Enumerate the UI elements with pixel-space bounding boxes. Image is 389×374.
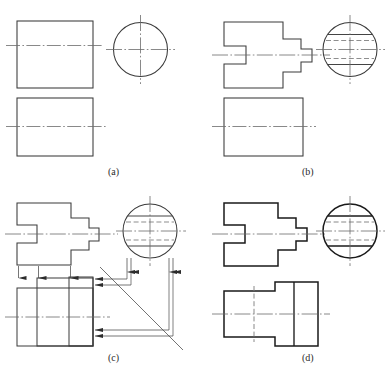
panel-d-side-view: [316, 196, 385, 266]
transfer-vertical-lines: [127, 272, 173, 336]
panel-a: [6, 15, 175, 156]
horizontal-transfer-arrows: [95, 279, 173, 336]
top-view-outline-rect: [17, 98, 93, 156]
panel-d: [212, 196, 385, 346]
panel-caption-c: (c): [108, 352, 119, 363]
engineering-drawing-canvas: [0, 0, 389, 374]
panel-b-front-view: [212, 22, 330, 88]
panel-c-top-view: [5, 277, 110, 346]
panel-c-side-view: [116, 196, 186, 266]
panel-caption-d: (d): [302, 352, 314, 363]
panel-b: [212, 15, 385, 156]
panel-caption-b: (b): [302, 166, 314, 177]
top-view-inner-rect: [69, 277, 93, 346]
front-view-stepped-outline: [224, 203, 307, 266]
miter-line-45-degree: [100, 267, 183, 350]
front-view-outline-rect: [17, 21, 93, 88]
panel-a-top-view: [6, 98, 106, 156]
vertical-projectors-front: [19, 266, 71, 278]
panel-c: [5, 196, 186, 350]
panel-d-top-view: [212, 282, 330, 346]
panel-b-side-view: [316, 15, 385, 84]
panel-b-top-view: [212, 98, 316, 156]
panel-a-front-view: [6, 21, 104, 88]
figure-root: (a) (b) (c) (d): [0, 0, 389, 374]
panel-caption-a: (a): [108, 166, 119, 177]
panel-a-side-view: [106, 15, 175, 84]
top-view-outline-rect: [224, 98, 303, 156]
panel-d-front-view: [212, 203, 325, 266]
panel-c-front-view: [5, 203, 118, 265]
